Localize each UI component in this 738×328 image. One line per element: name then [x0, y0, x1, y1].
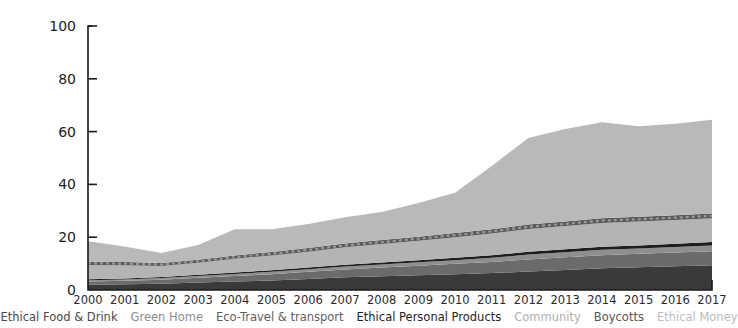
x-tick-label: 2014 — [587, 293, 616, 307]
y-tick-label: 60 — [58, 124, 76, 140]
x-tick-label: 2008 — [367, 293, 396, 307]
chart-root: 0204060801002000200120022003200420052006… — [0, 0, 738, 328]
x-tick-label: 2013 — [551, 293, 580, 307]
legend-item-ethical-personal-products[interactable]: Ethical Personal Products — [357, 306, 502, 328]
x-tick-label: 2001 — [110, 293, 139, 307]
legend-item-boycotts[interactable]: Boycotts — [594, 306, 644, 328]
x-tick-label: 2015 — [624, 293, 653, 307]
stacked-area-chart: 0204060801002000200120022003200420052006… — [0, 0, 738, 328]
x-tick-label: 2007 — [330, 293, 359, 307]
x-tick-label: 2012 — [514, 293, 543, 307]
y-tick-label: 80 — [58, 71, 76, 87]
y-tick-label: 100 — [49, 18, 76, 34]
x-tick-label: 2002 — [147, 293, 176, 307]
x-tick-label: 2003 — [183, 293, 212, 307]
x-tick-label: 2005 — [257, 293, 286, 307]
legend-item-eco-travel-transport[interactable]: Eco-Travel & transport — [216, 306, 344, 328]
chart-legend: Ethical Food & DrinkGreen HomeEco-Travel… — [0, 306, 738, 328]
y-tick-label: 20 — [58, 229, 76, 245]
x-tick-label: 2011 — [477, 293, 506, 307]
x-tick-label: 2017 — [697, 293, 726, 307]
legend-item-community[interactable]: Community — [514, 306, 581, 328]
x-tick-label: 2004 — [220, 293, 249, 307]
x-tick-label: 2010 — [440, 293, 469, 307]
x-tick-label: 2009 — [404, 293, 433, 307]
x-tick-label: 2016 — [661, 293, 690, 307]
legend-item-green-home[interactable]: Green Home — [131, 306, 203, 328]
legend-item-ethical-food-drink[interactable]: Ethical Food & Drink — [0, 306, 117, 328]
legend-item-ethical-money[interactable]: Ethical Money — [657, 306, 738, 328]
y-tick-label: 40 — [58, 176, 76, 192]
x-tick-label: 2006 — [294, 293, 323, 307]
x-tick-label: 2000 — [73, 293, 102, 307]
